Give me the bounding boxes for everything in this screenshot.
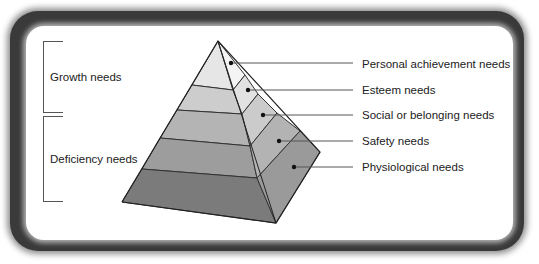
dot-esteem (246, 88, 250, 92)
dot-physiological (292, 165, 296, 169)
label-physiological-needs: Physiological needs (362, 160, 464, 174)
dot-social (261, 113, 265, 117)
label-esteem-needs: Esteem needs (362, 83, 436, 97)
label-safety-needs: Safety needs (362, 134, 429, 148)
dot-personal-achievement (229, 61, 233, 65)
pyramid-diagram (0, 0, 539, 264)
dot-safety (277, 139, 281, 143)
label-personal-achievement-needs: Personal achievement needs (362, 57, 510, 71)
label-social-needs: Social or belonging needs (362, 108, 494, 122)
